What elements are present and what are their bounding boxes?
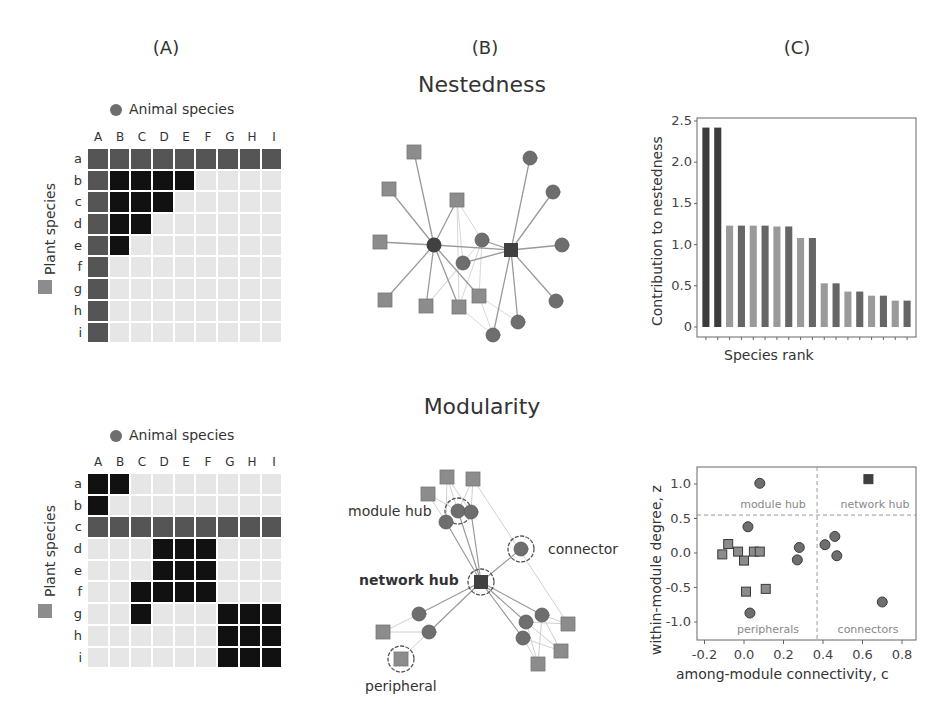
- scatter-point: [745, 608, 755, 618]
- svg-text:1.5: 1.5: [671, 195, 692, 210]
- bar: [904, 301, 911, 327]
- peripheral-label: peripheral: [365, 678, 437, 694]
- bar: [773, 226, 780, 327]
- data-points: [718, 475, 887, 618]
- plant-node: [450, 193, 464, 207]
- bar: [702, 128, 709, 327]
- scatter-point: [743, 522, 753, 532]
- nestedness-bar-chart: 00.51.01.52.02.5: [640, 110, 940, 380]
- scatter-xlabel: among-module connectivity, c: [676, 666, 889, 682]
- animal-node: [412, 607, 426, 621]
- generalist-plant-hub: [504, 243, 518, 257]
- animal-node: [439, 515, 453, 529]
- network-hub-label: network hub: [359, 572, 459, 588]
- animal-node: [555, 238, 569, 252]
- animal-node: [549, 294, 563, 308]
- svg-text:connectors: connectors: [838, 623, 899, 636]
- plant-node: [378, 293, 392, 307]
- scatter-point: [792, 555, 802, 565]
- scatter-point: [794, 542, 804, 552]
- svg-text:0: 0: [684, 319, 692, 334]
- scatter-point: [741, 587, 750, 596]
- bar-xlabel: Species rank: [724, 347, 814, 363]
- svg-text:2.0: 2.0: [671, 154, 692, 169]
- svg-text:1.0: 1.0: [670, 476, 691, 491]
- animal-node: [516, 631, 530, 645]
- plant-node: [419, 299, 433, 313]
- plant-node: [407, 145, 421, 159]
- animal-node: [464, 505, 478, 519]
- bar: [821, 283, 828, 327]
- connector-node: [514, 542, 528, 556]
- bar-ylabel: Contribution to nestedness: [649, 136, 665, 326]
- scatter-point: [877, 597, 887, 607]
- scatter-point: [740, 556, 749, 565]
- scatter-point: [761, 584, 770, 593]
- bar: [868, 296, 875, 327]
- plant-node: [466, 472, 480, 486]
- scatter-ylabel: within-module degree, z: [648, 485, 664, 655]
- module-hub-node: [451, 504, 465, 518]
- svg-text:0.4: 0.4: [813, 647, 834, 660]
- animal-node: [546, 185, 560, 199]
- svg-text:-0.5: -0.5: [666, 580, 691, 595]
- bar: [785, 226, 792, 327]
- svg-text:0.0: 0.0: [734, 647, 755, 660]
- bar: [856, 292, 863, 327]
- svg-text:0.5: 0.5: [670, 511, 691, 526]
- plant-node: [531, 657, 545, 671]
- bar: [880, 296, 887, 327]
- bar: [844, 292, 851, 327]
- scatter-point: [724, 540, 733, 549]
- bars: [702, 128, 910, 327]
- bar: [726, 226, 733, 327]
- plant-node: [440, 470, 454, 484]
- svg-text:peripherals: peripherals: [737, 623, 799, 636]
- bar: [714, 128, 721, 327]
- bar: [797, 238, 804, 327]
- module-hub-label: module hub: [348, 503, 432, 519]
- bar: [809, 238, 816, 327]
- scatter-point: [830, 531, 840, 541]
- animal-node: [519, 615, 533, 629]
- role-scatter-plot: -0.20.00.20.40.60.81.00.50.0-0.5-1.0 mod…: [640, 460, 940, 660]
- plant-node: [472, 289, 486, 303]
- threshold-lines: [697, 467, 916, 640]
- chart-frame: [697, 467, 916, 640]
- peripheral-plant-node: [394, 652, 408, 666]
- svg-text:0.8: 0.8: [892, 647, 913, 660]
- bar: [750, 226, 757, 327]
- bar: [762, 226, 769, 327]
- plant-node: [554, 644, 568, 658]
- animal-node: [511, 315, 525, 329]
- nested-network: [373, 145, 569, 342]
- plant-node: [382, 182, 396, 196]
- svg-text:-0.2: -0.2: [692, 647, 717, 660]
- plant-node: [452, 300, 466, 314]
- svg-text:0.6: 0.6: [852, 647, 873, 660]
- scatter-point: [734, 547, 743, 556]
- network-hub-node: [474, 575, 488, 589]
- plant-node: [373, 235, 387, 249]
- scatter-point: [755, 478, 765, 488]
- animal-node: [486, 328, 500, 342]
- animal-node: [475, 233, 489, 247]
- scatter-point: [864, 475, 873, 484]
- animal-node: [535, 608, 549, 622]
- scatter-point: [718, 550, 727, 559]
- animal-node: [456, 256, 470, 270]
- svg-text:module hub: module hub: [740, 498, 806, 511]
- svg-text:0.2: 0.2: [773, 647, 794, 660]
- plant-node: [376, 625, 390, 639]
- svg-text:1.0: 1.0: [671, 237, 692, 252]
- svg-text:0.5: 0.5: [671, 278, 692, 293]
- plant-node: [561, 617, 575, 631]
- generalist-animal-hub: [427, 238, 442, 253]
- svg-text:2.5: 2.5: [671, 113, 692, 128]
- connector-label: connector: [548, 541, 618, 557]
- animal-node: [422, 625, 436, 639]
- svg-text:0.0: 0.0: [670, 545, 691, 560]
- modular-network: [376, 470, 575, 672]
- plant-node: [421, 487, 435, 501]
- svg-text:-1.0: -1.0: [666, 614, 691, 629]
